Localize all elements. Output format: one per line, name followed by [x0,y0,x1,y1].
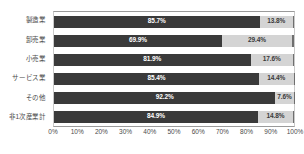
x-axis-tick-label: 70% [216,129,229,136]
bar-segment-secondary: 29.4% [222,35,293,47]
bar-segment-value-label: 29.4% [248,37,266,44]
bar-segment-primary: 81.9% [54,54,251,66]
bar-segment-secondary: 7.6% [275,92,293,104]
bar-segment-primary: 92.2% [54,92,275,104]
bar-segment-value-label: 14.4% [267,75,285,82]
stacked-bar-chart: 製造業 卸売業 小売業 サービス業 その他 非1次産業計 85.7%13.8%6… [0,0,304,154]
bar-segment-primary: 85.4% [54,73,259,85]
bar-segment-secondary: 14.8% [258,111,294,123]
bar-segment-value-label: 13.8% [267,18,285,25]
bar-segment-value-label: 81.9% [143,56,161,63]
x-axis-tick-label: 40% [143,129,156,136]
bar-segment-value-label: 84.9% [147,113,165,120]
x-axis-tick-label: 60% [192,129,205,136]
x-axis-tick-label: 30% [119,129,132,136]
bar-segment-remainder [293,16,294,28]
bar-segment-secondary: 14.4% [259,73,294,85]
x-axis: 0%10%20%30%40%50%60%70%80%90%100% [53,129,295,141]
y-axis-label-1: 卸売業 [0,34,50,46]
bar-segment-value-label: 14.8% [267,113,285,120]
bar-segment-primary: 69.9% [54,35,222,47]
bar-segment-primary: 84.9% [54,111,258,123]
plot-area: 85.7%13.8%69.9%29.4%81.9%17.6%85.4%14.4%… [53,11,295,127]
bar-row: 69.9%29.4% [54,35,294,47]
y-axis-label-2: 小売業 [0,53,50,65]
y-axis-label-3: サービス業 [0,73,50,85]
bar-segment-value-label: 85.7% [148,18,166,25]
x-axis-tick-label: 50% [167,129,180,136]
bar-segment-secondary: 13.8% [260,16,293,28]
x-axis-tick-label: 100% [287,129,304,136]
bar-row: 85.4%14.4% [54,73,294,85]
y-axis-category-labels: 製造業 卸売業 小売業 サービス業 その他 非1次産業計 [0,11,50,127]
bar-segment-primary: 85.7% [54,16,260,28]
bar-segment-secondary: 17.6% [251,54,293,66]
bar-segment-remainder [292,35,294,47]
x-axis-tick-label: 10% [71,129,84,136]
x-axis-tick-label: 20% [95,129,108,136]
bar-row: 85.7%13.8% [54,16,294,28]
x-axis-tick-label: 90% [264,129,277,136]
bar-row: 81.9%17.6% [54,54,294,66]
bar-segment-remainder [293,111,294,123]
bar-segment-value-label: 7.6% [277,94,291,101]
x-axis-tick-label: 80% [240,129,253,136]
bar-segment-value-label: 85.4% [148,75,166,82]
bar-segment-value-label: 17.6% [263,56,281,63]
bar-row: 84.9%14.8% [54,111,294,123]
bar-rows: 85.7%13.8%69.9%29.4%81.9%17.6%85.4%14.4%… [54,12,294,126]
x-axis-tick-label: 0% [48,129,57,136]
y-axis-label-0: 製造業 [0,15,50,27]
bar-segment-remainder [293,54,294,66]
y-axis-label-5: 非1次産業計 [0,111,50,123]
bar-row: 92.2%7.6% [54,92,294,104]
bar-segment-value-label: 69.9% [129,37,147,44]
y-axis-label-4: その他 [0,92,50,104]
bar-segment-value-label: 92.2% [156,94,174,101]
